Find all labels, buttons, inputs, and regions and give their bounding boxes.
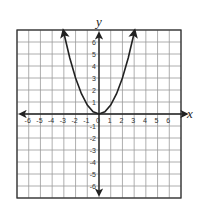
y-tick-label: 2: [92, 87, 96, 94]
y-tick-label: -3: [90, 147, 96, 154]
y-tick-label: 3: [92, 75, 96, 82]
x-tick-label: 4: [143, 117, 147, 124]
x-tick-label: 5: [155, 117, 159, 124]
x-tick-label: 3: [131, 117, 135, 124]
x-tick-label: -5: [36, 117, 42, 124]
y-tick-label: -5: [90, 171, 96, 178]
x-axis-label: x: [186, 106, 193, 121]
y-tick-label: 4: [92, 63, 96, 70]
axes: [20, 33, 187, 195]
y-tick-label: -6: [90, 183, 96, 190]
x-tick-label: -4: [48, 117, 54, 124]
y-tick-label: 5: [92, 51, 96, 58]
x-tick-label: -2: [71, 117, 77, 124]
y-tick-label: -4: [90, 159, 96, 166]
y-tick-label: -2: [90, 135, 96, 142]
x-tick-label: 0: [96, 117, 100, 124]
y-tick-label: 6: [92, 39, 96, 46]
coordinate-plane: -6-5-4-3-2-10123456-6-5-4-3-2-1123456 x …: [0, 0, 200, 213]
y-axis-label: y: [94, 14, 102, 29]
x-tick-label: -6: [25, 117, 31, 124]
x-tick-label: 1: [108, 117, 112, 124]
x-tick-label: -1: [83, 117, 89, 124]
x-tick-label: 6: [166, 117, 170, 124]
x-tick-label: 2: [119, 117, 123, 124]
x-tick-label: -3: [60, 117, 66, 124]
y-tick-label: 1: [92, 99, 96, 106]
y-tick-label: -1: [90, 123, 96, 130]
